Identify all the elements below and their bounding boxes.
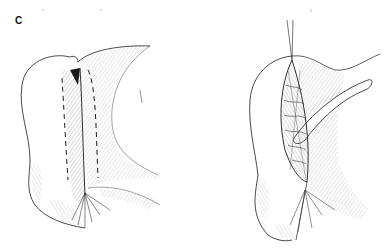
left-illustration bbox=[21, 46, 160, 228]
right-illustration bbox=[250, 20, 380, 241]
figure-canvas bbox=[0, 0, 391, 248]
